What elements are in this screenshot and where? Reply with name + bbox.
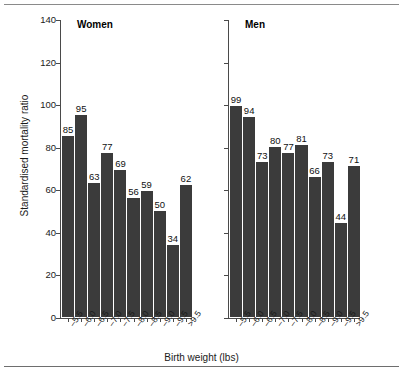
y-tick-label: 100 xyxy=(22,100,56,110)
bar-value-label: 56 xyxy=(128,187,139,197)
bar-item: 69 xyxy=(114,20,126,317)
bottom-divider-rule xyxy=(4,366,399,367)
y-axis-tick xyxy=(224,105,228,106)
bar xyxy=(167,245,179,317)
bar xyxy=(62,136,74,317)
bar-item: 62 xyxy=(180,20,192,317)
panel-title-women: Women xyxy=(77,19,113,30)
bar-item: 95 xyxy=(75,20,87,317)
figure-chart: Standardised mortality ratio 02040608010… xyxy=(0,0,403,376)
bar xyxy=(282,153,294,317)
y-tick-label: 120 xyxy=(22,58,56,68)
bar xyxy=(180,185,192,317)
bar-value-label: 71 xyxy=(349,155,360,165)
y-tick-label: 20 xyxy=(22,270,56,280)
bar-item: 73 xyxy=(256,20,268,317)
y-axis-tick-labels: 020406080100120140 xyxy=(14,20,56,319)
bar-value-label: 73 xyxy=(257,151,268,161)
panel-men: 99947380778166734471 –5.5–6.0–6.5–7.0–7.… xyxy=(228,20,360,318)
bar-value-label: 63 xyxy=(89,172,100,182)
bar-item: 56 xyxy=(127,20,139,317)
bar xyxy=(141,191,153,317)
y-axis-line-men xyxy=(228,20,229,319)
panel-women: 85956377695659503462 –5.5–6.0–6.5–7.0–7.… xyxy=(60,20,192,318)
bar xyxy=(114,170,126,317)
y-axis-tick xyxy=(56,20,60,21)
y-tick-label: 60 xyxy=(22,185,56,195)
bar-item: 81 xyxy=(295,20,307,317)
y-tick-label: 140 xyxy=(22,15,56,25)
bar-value-label: 44 xyxy=(336,212,347,222)
bar-value-label: 95 xyxy=(76,104,87,114)
bar-value-label: 85 xyxy=(63,125,74,135)
y-axis-tick xyxy=(224,63,228,64)
y-axis-tick xyxy=(56,190,60,191)
bar-value-label: 50 xyxy=(154,200,165,210)
bar-item: 34 xyxy=(167,20,179,317)
bar-item: 63 xyxy=(88,20,100,317)
bar-value-label: 77 xyxy=(102,142,113,152)
bar-value-label: 34 xyxy=(168,234,179,244)
bar-value-label: 77 xyxy=(283,142,294,152)
bar-value-label: 81 xyxy=(296,134,307,144)
y-axis-tick xyxy=(56,148,60,149)
bar-group-women: 85956377695659503462 xyxy=(62,20,192,317)
bar-item: 85 xyxy=(62,20,74,317)
y-axis-tick xyxy=(56,275,60,276)
bar xyxy=(348,166,360,317)
bar-item: 44 xyxy=(335,20,347,317)
bar xyxy=(230,106,242,317)
bar-value-label: 69 xyxy=(115,159,126,169)
y-tick-label: 80 xyxy=(22,143,56,153)
bar xyxy=(269,147,281,317)
bar-item: 77 xyxy=(282,20,294,317)
bar xyxy=(256,162,268,317)
bar-item: 50 xyxy=(154,20,166,317)
y-axis-line-women xyxy=(60,20,61,319)
bar-value-label: 99 xyxy=(231,95,242,105)
bar xyxy=(88,183,100,317)
bar-value-label: 66 xyxy=(309,166,320,176)
bar-item: 66 xyxy=(309,20,321,317)
panel-title-men: Men xyxy=(245,19,265,30)
bar-item: 80 xyxy=(269,20,281,317)
bar-value-label: 59 xyxy=(141,180,152,190)
bar xyxy=(101,153,113,317)
y-tick-label: 40 xyxy=(22,228,56,238)
y-tick-label: 0 xyxy=(22,313,56,323)
bar-group-men: 99947380778166734471 xyxy=(230,20,360,317)
bar-value-label: 62 xyxy=(181,174,192,184)
bar-item: 94 xyxy=(243,20,255,317)
bar-value-label: 73 xyxy=(322,151,333,161)
top-divider-rule xyxy=(4,4,399,5)
y-axis-tick xyxy=(224,20,228,21)
y-axis-tick xyxy=(56,63,60,64)
y-axis-tick xyxy=(56,105,60,106)
x-axis-title: Birth weight (lbs) xyxy=(0,352,403,363)
bar xyxy=(75,115,87,317)
y-axis-tick xyxy=(224,190,228,191)
bar-value-label: 80 xyxy=(270,136,281,146)
bar-item: 59 xyxy=(141,20,153,317)
bar xyxy=(243,117,255,317)
bar xyxy=(295,145,307,317)
bar xyxy=(335,223,347,317)
bar xyxy=(154,211,166,317)
bar xyxy=(309,177,321,317)
bar-value-label: 94 xyxy=(244,106,255,116)
y-axis-tick xyxy=(224,275,228,276)
bar xyxy=(322,162,334,317)
bar xyxy=(127,198,139,317)
y-axis-tick xyxy=(224,233,228,234)
bar-item: 77 xyxy=(101,20,113,317)
bar-item: 73 xyxy=(322,20,334,317)
y-axis-tick xyxy=(56,233,60,234)
bar-item: 99 xyxy=(230,20,242,317)
bar-item: 71 xyxy=(348,20,360,317)
y-axis-tick xyxy=(224,148,228,149)
